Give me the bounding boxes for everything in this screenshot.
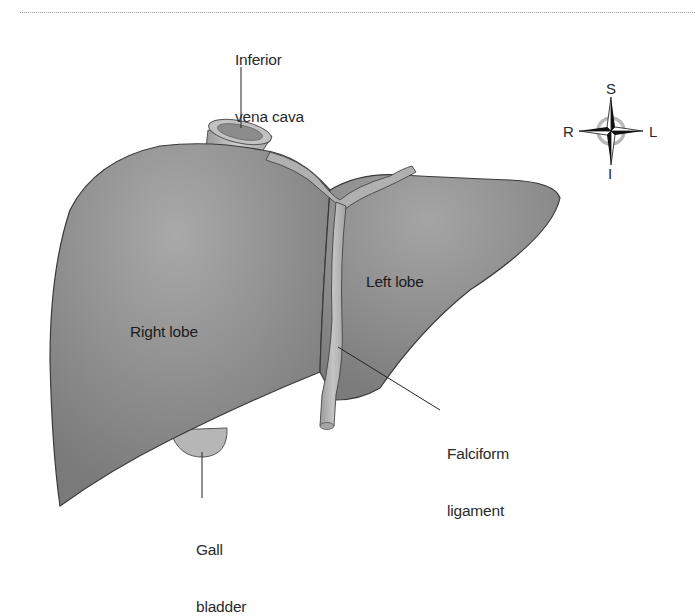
label-ivc-line2: vena cava (235, 107, 304, 126)
label-falciform-ligament: Falciform ligament (447, 406, 509, 539)
label-gall-bladder: Gall bladder (196, 502, 246, 616)
label-ivc-line1: Inferior (235, 50, 304, 69)
left-lobe (320, 175, 560, 400)
label-right-lobe: Right lobe (130, 322, 198, 341)
compass-label-right: R (563, 123, 574, 140)
compass-label-superior: S (606, 80, 616, 97)
label-gall-line2: bladder (196, 597, 246, 616)
label-falciform-line2: ligament (447, 501, 509, 520)
label-falciform-line1: Falciform (447, 444, 509, 463)
compass-rose-icon (579, 97, 643, 165)
label-inferior-vena-cava: Inferior vena cava (235, 12, 304, 145)
label-gall-line1: Gall (196, 540, 246, 559)
compass-label-left: L (649, 123, 657, 140)
compass-label-inferior: I (608, 165, 612, 182)
label-left-lobe: Left lobe (366, 272, 424, 291)
